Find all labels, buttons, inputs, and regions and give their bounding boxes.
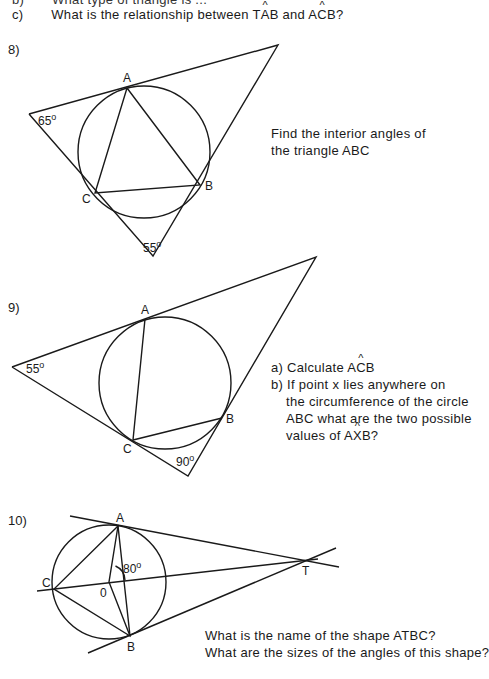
question-8-text-line-1: Find the interior angles of bbox=[271, 125, 426, 142]
question-9-part-b-line-2: the circumference of the circle bbox=[286, 393, 469, 410]
fig8-label-c: C bbox=[82, 192, 91, 206]
fig10-label-c: C bbox=[42, 576, 51, 590]
question-8-text-line-2: the triangle ABC bbox=[271, 142, 370, 159]
fig9-angle-90: 90o bbox=[176, 453, 194, 469]
question-10-text-line-2: What are the sizes of the angles of this… bbox=[205, 644, 489, 661]
fig9-label-a: A bbox=[141, 303, 149, 317]
fig10-label-a: A bbox=[116, 511, 124, 525]
fig10-label-t: T bbox=[302, 564, 310, 578]
question-9-part-b-line-3: ABC what are the two possible bbox=[286, 410, 472, 427]
part-b-text-1: If point x lies anywhere on bbox=[287, 377, 445, 392]
fig8-angle-65: 65o bbox=[38, 112, 56, 128]
figure-8-diagram bbox=[29, 45, 278, 256]
part-b-label: b) bbox=[271, 377, 283, 392]
question-9-part-a: a) Calculate ACB bbox=[271, 359, 375, 376]
figure-9-circle bbox=[99, 317, 231, 449]
fig10-angle-80: 80o bbox=[123, 560, 141, 576]
part-b-vertex: X bbox=[353, 427, 362, 444]
question-9-part-b-line-1: b) If point x lies anywhere on bbox=[271, 376, 446, 393]
figure-8-triangle-abc bbox=[95, 88, 200, 193]
fig9-angle-55: 55o bbox=[26, 360, 44, 376]
part-a-text: Calculate A bbox=[287, 360, 356, 375]
question-10-text-line-1: What is the name of the shape ATBC? bbox=[205, 627, 436, 644]
figure-10-tangent-a bbox=[70, 516, 339, 567]
fig8-label-b: B bbox=[205, 179, 213, 193]
part-a-vertex: C bbox=[356, 359, 366, 376]
question-9-part-b-line-4: values of AXB? bbox=[286, 427, 378, 444]
fig9-label-c: C bbox=[123, 442, 132, 456]
fig8-angle-55: 55o bbox=[143, 239, 161, 255]
part-b-text-4: values of A bbox=[286, 428, 353, 443]
fig10-label-o: 0 bbox=[100, 586, 107, 600]
figure-8-outer-triangle bbox=[29, 45, 278, 256]
fig9-label-b: B bbox=[226, 412, 234, 426]
fig8-label-a: A bbox=[123, 71, 131, 85]
part-b-end: B? bbox=[362, 428, 379, 443]
part-a-end: B bbox=[366, 360, 375, 375]
figure-8-circle bbox=[78, 86, 210, 218]
fig10-label-b: B bbox=[127, 640, 135, 654]
figure-9-chords bbox=[133, 319, 222, 440]
part-a-label: a) bbox=[271, 360, 283, 375]
